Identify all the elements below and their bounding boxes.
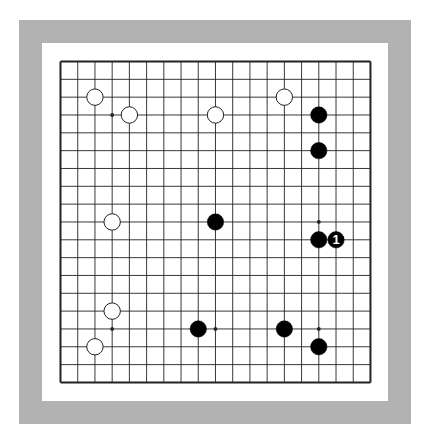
black-stone[interactable]: 1: [328, 232, 344, 248]
white-stone[interactable]: [207, 107, 223, 123]
star-point: [110, 113, 114, 117]
stone-disc: [104, 303, 120, 319]
white-stone[interactable]: [276, 89, 292, 105]
white-stone[interactable]: [121, 107, 137, 123]
stone-disc: [87, 89, 103, 105]
star-point: [110, 327, 114, 331]
white-stone[interactable]: [87, 89, 103, 105]
black-stone[interactable]: [311, 232, 327, 248]
go-board[interactable]: 1: [0, 0, 428, 448]
star-point: [317, 327, 321, 331]
white-stone[interactable]: [87, 339, 103, 355]
stone-disc: [311, 107, 327, 123]
stone-disc: [207, 107, 223, 123]
star-point: [214, 327, 218, 331]
stone-disc: [276, 89, 292, 105]
move-number-label: 1: [332, 232, 339, 247]
stone-disc: [121, 107, 137, 123]
white-stone[interactable]: [104, 303, 120, 319]
stone-disc: [207, 214, 223, 230]
stone-disc: [190, 321, 206, 337]
stone-disc: [311, 232, 327, 248]
black-stone[interactable]: [311, 339, 327, 355]
stone-disc: [87, 339, 103, 355]
black-stone[interactable]: [190, 321, 206, 337]
stone-disc: [311, 142, 327, 158]
black-stone[interactable]: [311, 107, 327, 123]
stone-disc: [311, 339, 327, 355]
black-stone[interactable]: [276, 321, 292, 337]
stone-disc: [276, 321, 292, 337]
black-stone[interactable]: [207, 214, 223, 230]
black-stone[interactable]: [311, 142, 327, 158]
stone-disc: [104, 214, 120, 230]
star-point: [317, 220, 321, 224]
white-stone[interactable]: [104, 214, 120, 230]
